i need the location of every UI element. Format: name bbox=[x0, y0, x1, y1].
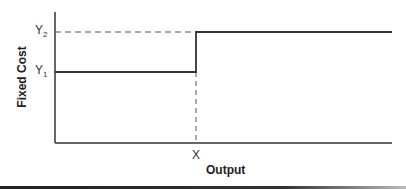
fixed-cost-step-line bbox=[55, 32, 392, 72]
y2-tick-label: Y2 bbox=[35, 23, 47, 39]
x-tick-label: X bbox=[192, 148, 200, 162]
bottom-divider bbox=[0, 186, 406, 189]
y1-tick-label: Y1 bbox=[35, 63, 47, 79]
x-axis-label: Output bbox=[206, 163, 245, 177]
y-axis-label: Fixed Cost bbox=[15, 37, 29, 117]
fixed-cost-chart bbox=[0, 0, 406, 189]
